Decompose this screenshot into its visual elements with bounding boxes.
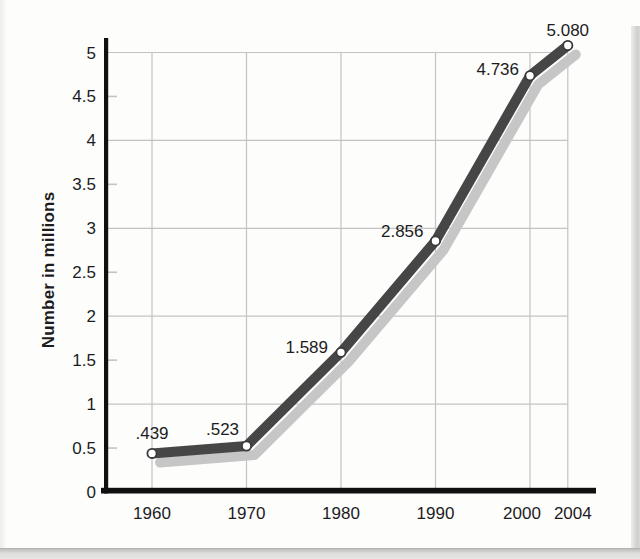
y-tick-label: 4.5 — [72, 87, 96, 106]
page-edge-right — [631, 26, 640, 549]
page-edge-left — [0, 0, 7, 549]
y-tick-label: 1 — [87, 395, 96, 414]
series-line — [152, 46, 568, 454]
y-tick-label: 5 — [87, 44, 96, 63]
y-tick-label: 2.5 — [72, 263, 96, 282]
point-label: .439 — [135, 424, 168, 443]
y-axis-tick-labels: 00.511.522.533.544.55 — [72, 44, 96, 503]
point-label: 4.736 — [476, 60, 519, 79]
point-label: 1.589 — [285, 338, 328, 357]
x-tick-label: 1980 — [322, 504, 360, 523]
y-tick-label: 3.5 — [72, 175, 96, 194]
gridlines — [106, 53, 568, 489]
point-label: 5.080 — [547, 21, 590, 40]
line-chart: .439.5231.5892.8564.7365.080 19601970198… — [0, 0, 640, 559]
y-tick-label: 2 — [87, 307, 96, 326]
point-label: .523 — [206, 420, 239, 439]
y-tick-label: 3 — [87, 219, 96, 238]
x-tick-label: 1990 — [417, 504, 455, 523]
y-tick-label: 0.5 — [72, 439, 96, 458]
x-axis-tick-labels: 196019701980199020002004 — [133, 504, 592, 523]
x-tick-label: 2000 — [503, 504, 541, 523]
y-tick-label: 1.5 — [72, 351, 96, 370]
scanned-chart-page: Number in millions .439.5231.5892.8564.7… — [0, 0, 640, 559]
y-tick-label: 4 — [87, 131, 96, 150]
page-edge-bottom — [0, 548, 640, 559]
y-tick-label: 0 — [87, 483, 96, 502]
series-shadow — [160, 55, 576, 463]
point-label: 2.856 — [381, 222, 424, 241]
x-tick-label: 1970 — [228, 504, 266, 523]
x-tick-label: 1960 — [133, 504, 171, 523]
x-tick-label: 2004 — [554, 504, 592, 523]
